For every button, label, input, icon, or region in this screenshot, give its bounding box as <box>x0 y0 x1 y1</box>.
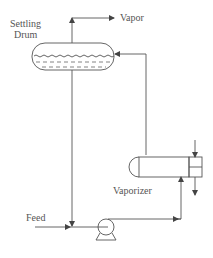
vaporizer <box>129 157 202 177</box>
pump-icon <box>96 219 116 240</box>
settling-drum <box>32 43 114 70</box>
feed-label: Feed <box>26 212 45 223</box>
liquid-level-line <box>34 55 114 57</box>
vaporizer-label: Vaporizer <box>113 185 153 196</box>
vaporizer-shell <box>139 157 189 177</box>
vaporizer-inlet-pipe <box>175 177 181 219</box>
vapor-label: Vapor <box>120 12 145 23</box>
vaporizer-head <box>129 157 139 177</box>
vaporizer-return-pipe <box>115 54 146 155</box>
settling-drum-label-1: Settling <box>10 18 41 29</box>
process-diagram: Settling Drum Vapor Vaporizer Feed <box>0 0 213 258</box>
settling-drum-label-2: Drum <box>14 29 38 40</box>
